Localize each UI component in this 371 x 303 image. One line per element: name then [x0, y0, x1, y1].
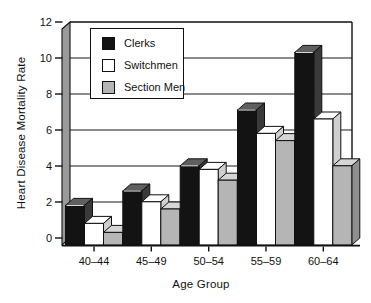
legend-swatch-section-men	[102, 81, 115, 94]
legend-swatch-switchmen	[102, 59, 115, 72]
legend-label: Clerks	[124, 37, 155, 49]
bar-clerks-55-59	[238, 110, 257, 245]
x-tick-label: 50–54	[180, 255, 238, 267]
x-tick-label: 40–44	[65, 255, 123, 267]
y-tick-label: 8	[22, 88, 52, 100]
legend-label: Section Men	[124, 81, 185, 93]
legend-item-clerks: Clerks	[102, 36, 155, 50]
y-tick-label: 2	[22, 196, 52, 208]
bar-clerks-50-54	[180, 166, 199, 245]
bar-section-men-45-49	[161, 209, 180, 245]
bar-clerks-45-49	[123, 191, 142, 245]
legend-item-section-men: Section Men	[102, 80, 185, 94]
y-tick-label: 12	[22, 16, 52, 28]
y-tick-label: 6	[22, 124, 52, 136]
y-tick-label: 0	[22, 232, 52, 244]
bar-section-men-50-54	[218, 180, 237, 245]
x-tick-label: 60–64	[294, 255, 352, 267]
x-tick-label: 45–49	[122, 255, 180, 267]
bar-section-men-55-59	[276, 141, 295, 245]
bar-switchmen-50-54	[199, 169, 218, 245]
x-axis-title: Age Group	[136, 278, 266, 290]
bar-clerks-40-44	[66, 205, 85, 245]
legend-swatch-clerks	[102, 37, 115, 50]
bar-switchmen-40-44	[85, 223, 104, 245]
bar-switchmen-55-59	[257, 133, 276, 245]
legend-label: Switchmen	[124, 59, 178, 71]
bar-switchmen-60-64	[314, 119, 333, 245]
bar-side-face	[352, 159, 360, 245]
y-tick-label: 4	[22, 160, 52, 172]
legend-item-switchmen: Switchmen	[102, 58, 178, 72]
y-tick-label: 10	[22, 52, 52, 64]
bar-switchmen-45-49	[142, 202, 161, 245]
x-tick-label: 55–59	[237, 255, 295, 267]
bar-section-men-60-64	[333, 166, 352, 245]
bar-section-men-40-44	[104, 232, 123, 245]
chart-figure: Heart Disease Mortality Rate Age Group C…	[0, 0, 371, 303]
bar-clerks-60-64	[295, 52, 314, 245]
legend-box: Clerks Switchmen Section Men	[90, 28, 184, 99]
